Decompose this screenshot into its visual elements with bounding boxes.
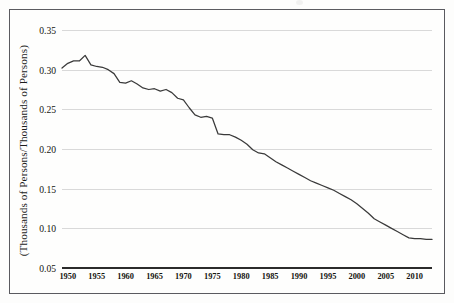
plot-area: 0.350.300.250.200.150.100.05 19501955196… (62, 30, 432, 268)
x-tick-label: 2005 (377, 272, 394, 281)
y-tick-label: 0.30 (39, 64, 56, 75)
y-tick-label: 0.25 (39, 104, 56, 115)
x-tick-label: 1950 (59, 272, 76, 281)
y-tick-label: 0.05 (39, 263, 56, 274)
x-tick-label: 1955 (88, 272, 105, 281)
x-tick-label: 1965 (146, 272, 163, 281)
x-tick-label: 1970 (175, 272, 192, 281)
y-tick-label: 0.20 (39, 144, 56, 155)
y-tick-label: 0.15 (39, 183, 56, 194)
x-tick-label: 2000 (348, 272, 365, 281)
series-line-chart (62, 30, 432, 268)
x-tick-label: 1995 (320, 272, 337, 281)
x-tick-label: 1960 (117, 272, 134, 281)
x-tick-label: 2010 (406, 272, 423, 281)
x-tick-label: 1985 (262, 272, 279, 281)
chart-figure: (Thousands of Persons/Thousands of Perso… (0, 0, 454, 303)
x-tick-label: 1975 (204, 272, 221, 281)
x-tick-label: 1980 (233, 272, 250, 281)
x-tick-label: 1990 (291, 272, 308, 281)
scan-artifact (296, 0, 303, 5)
y-tick-label: 0.10 (39, 223, 56, 234)
y-tick-label: 0.35 (39, 25, 56, 36)
series-line-path (62, 55, 432, 239)
